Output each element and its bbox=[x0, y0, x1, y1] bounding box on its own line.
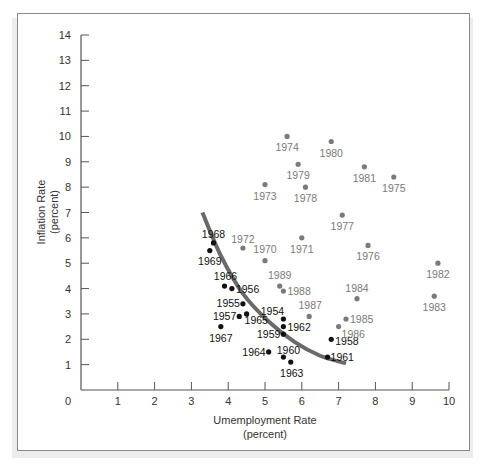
point-label-1975: 1975 bbox=[382, 182, 406, 194]
point-label-1987: 1987 bbox=[298, 299, 322, 311]
x-tick-label: 8 bbox=[372, 395, 378, 407]
point-label-1971: 1971 bbox=[290, 243, 314, 255]
data-point-1969 bbox=[207, 248, 212, 253]
point-label-1986: 1986 bbox=[342, 328, 366, 340]
data-point-1984 bbox=[354, 296, 359, 301]
data-point-1971 bbox=[299, 235, 304, 240]
data-point-1981 bbox=[362, 164, 367, 169]
point-label-1989: 1989 bbox=[268, 269, 292, 281]
y-tick-label: 5 bbox=[65, 257, 71, 269]
point-label-1977: 1977 bbox=[331, 220, 355, 232]
x-tick-label: 1 bbox=[115, 395, 121, 407]
scatter-chart: 1234567891011121314012345678910 19541955… bbox=[0, 0, 484, 465]
point-label-1956: 1956 bbox=[236, 283, 260, 295]
point-label-1985: 1985 bbox=[350, 313, 374, 325]
point-label-1970: 1970 bbox=[253, 243, 277, 255]
data-point-1972 bbox=[240, 245, 245, 250]
y-tick-label: 7 bbox=[65, 207, 71, 219]
data-point-1970 bbox=[262, 258, 267, 263]
y-tick-label: 9 bbox=[65, 156, 71, 168]
data-point-1982 bbox=[435, 261, 440, 266]
y-tick-label: 10 bbox=[59, 130, 71, 142]
x-axis-subtitle: (percent) bbox=[243, 428, 287, 440]
point-label-1972: 1972 bbox=[231, 233, 255, 245]
data-point-1961 bbox=[325, 354, 330, 359]
y-tick-label: 3 bbox=[65, 308, 71, 320]
data-point-1963 bbox=[288, 360, 293, 365]
point-label-1967: 1967 bbox=[209, 332, 233, 344]
x-tick-label: 4 bbox=[225, 395, 231, 407]
point-label-1957: 1957 bbox=[213, 310, 237, 322]
point-label-1955: 1955 bbox=[217, 297, 241, 309]
data-point-1975 bbox=[391, 174, 396, 179]
y-tick-label: 4 bbox=[65, 283, 71, 295]
point-label-1959: 1959 bbox=[257, 328, 281, 340]
data-point-1989 bbox=[277, 283, 282, 288]
y-tick-label: 8 bbox=[65, 181, 71, 193]
data-point-1973 bbox=[262, 182, 267, 187]
x-axis-title: Umemployment Rate bbox=[213, 414, 316, 426]
point-label-1960: 1960 bbox=[277, 344, 301, 356]
data-point-1956 bbox=[229, 286, 234, 291]
data-point-1977 bbox=[340, 212, 345, 217]
x-tick-label: 2 bbox=[152, 395, 158, 407]
x-tick-label: 9 bbox=[409, 395, 415, 407]
data-point-1983 bbox=[432, 294, 437, 299]
y-axis-title: Inflation Rate bbox=[35, 180, 47, 245]
point-label-1965: 1965 bbox=[245, 314, 269, 326]
data-point-1967 bbox=[218, 324, 223, 329]
data-point-1957 bbox=[237, 314, 242, 319]
point-label-1964: 1964 bbox=[242, 346, 266, 358]
point-label-1981: 1981 bbox=[353, 172, 377, 184]
point-label-1976: 1976 bbox=[356, 250, 380, 262]
x-tick-label: 7 bbox=[336, 395, 342, 407]
data-point-1979 bbox=[296, 162, 301, 167]
point-label-1961: 1961 bbox=[331, 351, 355, 363]
data-point-1987 bbox=[307, 314, 312, 319]
x-tick-label: 6 bbox=[299, 395, 305, 407]
data-point-1959 bbox=[281, 332, 286, 337]
point-label-1969: 1969 bbox=[198, 255, 222, 267]
point-label-1962: 1962 bbox=[287, 321, 311, 333]
y-tick-label: 11 bbox=[60, 105, 71, 117]
data-point-1968 bbox=[211, 240, 216, 245]
point-label-1974: 1974 bbox=[275, 141, 299, 153]
data-point-1964 bbox=[266, 349, 271, 354]
x-tick-label: 3 bbox=[188, 395, 194, 407]
data-point-1955 bbox=[240, 301, 245, 306]
y-tick-label: 2 bbox=[65, 333, 71, 345]
y-tick-label: 1 bbox=[65, 359, 71, 371]
point-label-1966: 1966 bbox=[214, 270, 238, 282]
data-point-1978 bbox=[303, 185, 308, 190]
data-point-1958 bbox=[329, 337, 334, 342]
y-tick-label: 6 bbox=[65, 232, 71, 244]
point-label-1973: 1973 bbox=[253, 190, 277, 202]
point-label-1982: 1982 bbox=[426, 268, 450, 280]
point-label-1979: 1979 bbox=[286, 169, 310, 181]
point-label-1963: 1963 bbox=[280, 367, 304, 379]
data-point-1980 bbox=[329, 139, 334, 144]
point-label-1978: 1978 bbox=[294, 192, 318, 204]
data-point-1985 bbox=[343, 316, 348, 321]
data-point-1988 bbox=[281, 289, 286, 294]
y-tick-label: 14 bbox=[59, 29, 71, 41]
data-point-1976 bbox=[365, 243, 370, 248]
data-point-1962 bbox=[281, 324, 286, 329]
point-label-1968: 1968 bbox=[202, 228, 226, 240]
y-tick-label: 13 bbox=[59, 54, 71, 66]
x-tick-label: 0 bbox=[65, 395, 71, 407]
x-tick-label: 10 bbox=[443, 395, 455, 407]
point-label-1983: 1983 bbox=[423, 301, 447, 313]
data-point-1966 bbox=[222, 283, 227, 288]
point-label-1980: 1980 bbox=[320, 147, 344, 159]
x-tick-label: 5 bbox=[262, 395, 268, 407]
y-axis-subtitle: (percent) bbox=[48, 190, 60, 234]
point-label-1988: 1988 bbox=[287, 285, 311, 297]
data-point-1986 bbox=[336, 324, 341, 329]
data-point-1954 bbox=[281, 316, 286, 321]
data-point-1974 bbox=[284, 134, 289, 139]
point-label-1984: 1984 bbox=[345, 282, 369, 294]
y-tick-label: 12 bbox=[59, 80, 71, 92]
data-points: 1954195519561957195819591960196119621963… bbox=[198, 134, 450, 379]
